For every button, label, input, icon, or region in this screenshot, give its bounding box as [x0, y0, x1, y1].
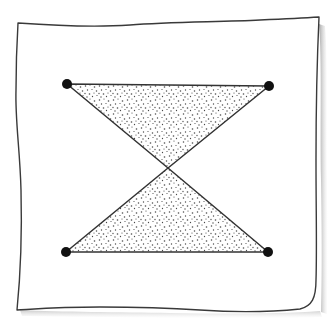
hourglass-diagram: [0, 0, 336, 324]
vertex-dot-top-left: [62, 79, 72, 89]
vertex-dot-top-right: [264, 81, 274, 91]
vertex-dot-bottom-right: [263, 247, 273, 257]
vertex-dot-bottom-left: [61, 247, 71, 257]
diagram-canvas: [0, 0, 336, 324]
